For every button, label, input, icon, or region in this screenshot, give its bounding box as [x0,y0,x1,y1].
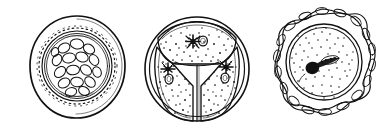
spore-ovoid [70,76,84,87]
compartment-top-nucleus [186,35,200,48]
figure-1-multi-spore-cyst [27,0,127,137]
compartment-lower-right-vacuole [221,73,229,83]
figure-3-canvas [264,0,384,137]
braid-loop [298,11,312,21]
spore-ovoid [74,50,89,64]
braid-loop [283,20,297,33]
figure-2-canvas [142,0,252,137]
spore-ovoid [91,65,103,78]
braid-loop [287,94,301,107]
braid-loop [361,74,373,88]
compartment-top-outline [158,22,236,64]
spore-ovoid [87,53,101,68]
braid-loop [275,33,287,47]
spore-ovoid [66,65,80,75]
spore-ovoid [62,52,77,64]
spore-ovoid [69,38,84,50]
braid-loop [361,27,372,41]
chromatin-mass [299,54,340,82]
compartment-lower-right-nucleus [219,61,233,73]
spore-ovoid [78,62,93,77]
braid-loop [336,101,350,112]
fig1-group [30,16,125,118]
compartment-lower-left-nucleus [161,63,175,75]
fig3-group [273,8,377,116]
illustration-plate [0,0,391,137]
figure-2-three-compartment-sporocyst [142,0,252,137]
fig2-group [145,17,249,121]
figure-1-canvas [27,0,127,137]
compartment-top [158,22,236,66]
compartment-lower-left-vacuole [165,74,173,84]
spore-cluster [50,38,103,98]
figure-3-braided-capsule-cell [264,0,384,137]
